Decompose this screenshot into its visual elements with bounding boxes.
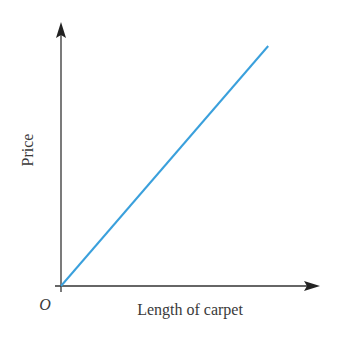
y-axis-label: Price <box>19 134 37 167</box>
x-axis-label: Length of carpet <box>137 301 243 319</box>
chart-area: Price Length of carpet O <box>0 0 343 343</box>
chart-svg <box>0 0 343 343</box>
data-line <box>61 46 268 286</box>
origin-label: O <box>39 296 51 314</box>
